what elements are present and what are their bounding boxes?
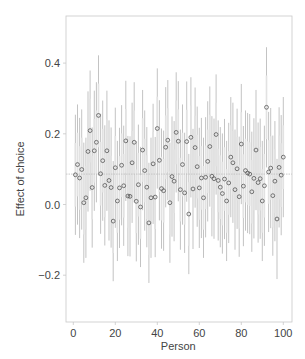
chart: 020406080100 −0.20.00.20.4 Person Effect… xyxy=(0,0,305,359)
error-bars xyxy=(75,47,283,283)
x-tick-label: 20 xyxy=(109,327,121,339)
y-tick-label: −0.2 xyxy=(38,269,60,281)
x-tick-label: 60 xyxy=(193,327,205,339)
x-axis-label: Person xyxy=(161,340,196,352)
plot-area: 020406080100 −0.20.00.20.4 Person Effect… xyxy=(0,0,305,359)
x-tick-label: 40 xyxy=(151,327,163,339)
x-tick-label: 80 xyxy=(235,327,247,339)
y-axis: −0.20.00.20.4 xyxy=(38,57,66,281)
x-tick-label: 0 xyxy=(70,327,76,339)
y-tick-label: 0.4 xyxy=(45,57,60,69)
x-axis: 020406080100 xyxy=(70,322,292,339)
y-axis-label: Effect of choice xyxy=(14,141,26,216)
y-tick-label: 0.0 xyxy=(45,199,60,211)
y-tick-label: 0.2 xyxy=(45,128,60,140)
x-tick-label: 100 xyxy=(274,327,292,339)
